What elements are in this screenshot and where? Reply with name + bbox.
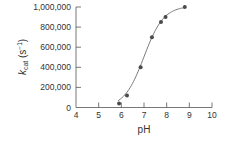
data-point [139, 65, 143, 69]
y-tick-label: 0 [66, 103, 71, 113]
data-point [159, 20, 163, 24]
x-tick-label: 7 [142, 110, 147, 120]
data-points [117, 5, 187, 105]
fit-curve-path [118, 8, 185, 101]
x-tick-label: 10 [207, 110, 217, 120]
x-tick-label: 5 [96, 110, 101, 120]
y-tick-label: 1,000,000 [33, 2, 71, 12]
x-tick-label: 9 [187, 110, 192, 120]
y-tick-label: 800,000 [40, 22, 71, 32]
x-tick-label: 6 [119, 110, 124, 120]
x-tick-label: 8 [164, 110, 169, 120]
y-axis-title-unit: (s [17, 50, 28, 61]
data-point [117, 101, 121, 105]
y-axis-title-sub: cat [22, 61, 29, 70]
y-tick-label: 200,000 [40, 82, 71, 92]
y-axis-title: kcat (s−1) [16, 39, 29, 75]
data-point [125, 93, 129, 97]
y-tick-label: 600,000 [40, 42, 71, 52]
x-axis-title: pH [138, 124, 151, 135]
kcat-vs-ph-chart: 0200,000400,000600,000800,0001,000,00045… [0, 0, 226, 142]
data-point [183, 5, 187, 9]
x-tick-label: 4 [74, 110, 79, 120]
data-point [150, 35, 154, 39]
data-point [164, 15, 168, 19]
fit-curve [118, 8, 185, 101]
y-tick-label: 400,000 [40, 62, 71, 72]
axes: 0200,000400,000600,000800,0001,000,00045… [33, 2, 217, 120]
y-axis-title-close: ) [17, 39, 28, 42]
